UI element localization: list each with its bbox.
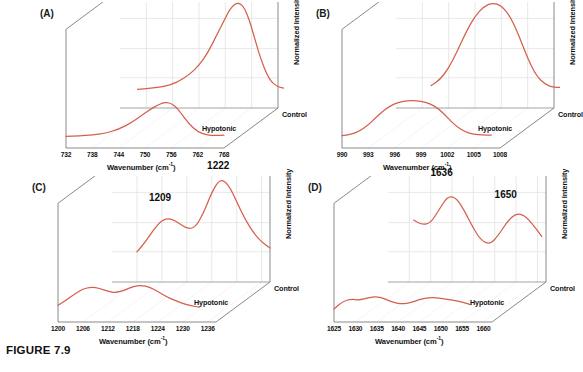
x-tick-label: 1230 <box>176 325 190 332</box>
x-axis-title: Wavenumber (cm-1) <box>375 335 443 346</box>
x-tick-label: 1002 <box>440 151 454 158</box>
x-tick-label: 1625 <box>327 325 341 332</box>
x-tick-label: 993 <box>363 151 373 158</box>
x-tick-label: 1005 <box>467 151 481 158</box>
series-label-hypotonic: Hypotonic <box>194 298 228 307</box>
x-tick-label: 1200 <box>51 325 65 332</box>
x-tick-label: 990 <box>337 151 347 158</box>
x-tick-label: 732 <box>61 151 71 158</box>
peak-label-1222: 1222 <box>207 160 229 171</box>
x-tick-label: 1008 <box>493 151 507 158</box>
x-tick-label: 1206 <box>76 325 90 332</box>
x-tick-label: 999 <box>416 151 426 158</box>
panel-letter-c: (C) <box>32 182 46 193</box>
x-tick-label: 1630 <box>348 325 362 332</box>
panel-c: (C)1200120612121218122412301236Wavenumbe… <box>6 176 276 348</box>
x-tick-label: 738 <box>87 151 97 158</box>
plot-b-canvas <box>290 2 560 174</box>
peak-label-1650: 1650 <box>495 189 517 200</box>
x-axis-title: Wavenumber (cm-1) <box>99 335 167 346</box>
panel-d: (D)16251630163516401645165016551660Waven… <box>282 176 552 348</box>
x-tick-label: 996 <box>389 151 399 158</box>
panel-letter-b: (B) <box>316 8 330 19</box>
x-tick-label: 1635 <box>370 325 384 332</box>
peak-label-1209: 1209 <box>149 192 171 203</box>
x-tick-label: 1645 <box>412 325 426 332</box>
x-tick-label: 762 <box>192 151 202 158</box>
series-label-control: Control <box>558 110 583 119</box>
x-tick-label: 750 <box>140 151 150 158</box>
x-tick-label: 1660 <box>477 325 491 332</box>
x-tick-label: 744 <box>113 151 123 158</box>
x-tick-label: 768 <box>219 151 229 158</box>
panel-letter-a: (A) <box>40 8 54 19</box>
x-tick-label: 1212 <box>101 325 115 332</box>
x-tick-label: 1650 <box>434 325 448 332</box>
series-label-hypotonic: Hypotonic <box>202 124 236 133</box>
plot-d-canvas <box>282 176 552 348</box>
panel-a: (A)732738744750756762768Wavenumber (cm-1… <box>14 2 284 174</box>
x-tick-label: 756 <box>166 151 176 158</box>
panel-b: (B)990993996999100210051008Wavenumber (c… <box>290 2 560 174</box>
series-label-control: Control <box>550 284 575 293</box>
series-label-hypotonic: Hypotonic <box>470 298 504 307</box>
peak-label-1636: 1636 <box>431 167 453 178</box>
plot-c-canvas <box>6 176 276 348</box>
x-tick-label: 1224 <box>151 325 165 332</box>
x-axis-title: Wavenumber (cm-1) <box>107 161 175 172</box>
figure-caption: FIGURE 7.9 <box>6 344 71 356</box>
x-tick-label: 1655 <box>455 325 469 332</box>
z-axis-title: Normalized Intensity <box>568 0 577 65</box>
x-tick-label: 1218 <box>126 325 140 332</box>
panel-letter-d: (D) <box>308 182 322 193</box>
x-tick-label: 1640 <box>391 325 405 332</box>
plot-a-canvas <box>14 2 284 174</box>
series-label-hypotonic: Hypotonic <box>478 124 512 133</box>
z-axis-title: Normalized Intensity <box>560 169 569 239</box>
x-tick-label: 1236 <box>201 325 215 332</box>
